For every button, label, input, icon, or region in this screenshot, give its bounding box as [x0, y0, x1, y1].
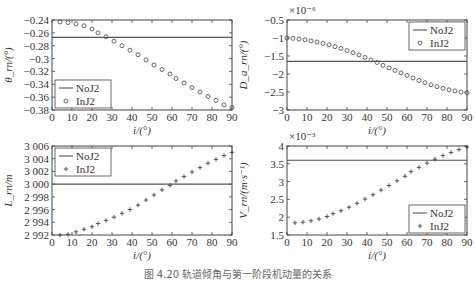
legend: NoJ2InJ2	[55, 148, 111, 176]
x-tick-label: 40	[362, 236, 374, 248]
x-axis-label: i/(°)	[133, 124, 151, 137]
x-tick-label: 90	[227, 111, 239, 123]
y-tick-label: 3 006	[24, 140, 49, 152]
legend-label: InJ2	[76, 95, 95, 107]
x-tick-label: 70	[422, 236, 434, 248]
x-tick-label: 20	[322, 236, 334, 248]
x-tick-label: 10	[67, 111, 79, 123]
y-axis-label: D_a_rn/(°)	[237, 40, 250, 90]
x-tick-label: 50	[382, 236, 394, 248]
y-tick-label: −0.5	[264, 14, 284, 26]
x-tick-label: 40	[362, 111, 374, 123]
legend-label: NoJ2	[430, 24, 453, 36]
x-tick-label: 60	[402, 236, 414, 248]
chart-panel-top-left: 0102030405060708090−0.24−0.26−0.28−0.3−0…	[2, 14, 238, 137]
y-tick-label: 2 998	[24, 191, 49, 203]
x-tick-label: 60	[167, 111, 179, 123]
x-tick-label: 30	[107, 111, 119, 123]
legend-label: NoJ2	[76, 150, 99, 162]
x-tick-label: 50	[382, 111, 394, 123]
x-tick-label: 30	[342, 111, 354, 123]
x-tick-label: 80	[207, 236, 219, 248]
legend-label: InJ2	[76, 163, 95, 175]
y-tick-label: −0.34	[24, 78, 50, 90]
x-tick-label: 10	[302, 236, 314, 248]
legend: NoJ2InJ2	[55, 80, 111, 108]
x-tick-label: 10	[302, 111, 314, 123]
y-tick-label: 4	[279, 140, 285, 152]
x-tick-label: 70	[187, 236, 199, 248]
axis-exponent-label: ×10⁻⁶	[289, 4, 316, 16]
y-tick-label: 2	[279, 211, 285, 223]
x-tick-label: 20	[87, 111, 99, 123]
x-tick-label: 30	[342, 236, 354, 248]
x-tick-label: 40	[127, 111, 139, 123]
y-tick-label: −0.28	[24, 40, 50, 52]
y-tick-label: 2.5	[270, 193, 284, 205]
y-tick-label: −1	[272, 32, 284, 44]
y-tick-label: −0.3	[29, 53, 49, 65]
x-tick-label: 90	[462, 111, 474, 123]
y-axis-label: L_rn/m	[2, 174, 14, 207]
x-tick-label: 70	[187, 111, 199, 123]
x-tick-label: 90	[227, 236, 239, 248]
x-tick-label: 60	[167, 236, 179, 248]
legend-label: NoJ2	[430, 207, 453, 219]
legend: NoJ2InJ2	[409, 22, 465, 50]
y-tick-label: −0.32	[24, 65, 49, 77]
y-tick-label: 2 996	[24, 204, 49, 216]
axis-exponent-label: ×10⁻³	[289, 130, 316, 142]
y-tick-label: 3	[279, 176, 285, 188]
y-axis-label: V_rn/(m·s⁻¹)	[237, 162, 250, 219]
x-tick-label: 20	[87, 236, 99, 248]
figure-caption: 图 4.20 轨道倾角与第一阶段机动量的关系	[0, 266, 476, 281]
y-tick-label: −1.5	[264, 50, 284, 62]
chart-panel-bottom-right: 010203040506070809043.532.521.5×10⁻³i/(°…	[237, 130, 473, 262]
y-tick-label: −2	[272, 68, 284, 80]
y-tick-label: −3	[272, 104, 284, 116]
chart-panel-bottom-left: 01020304050607080903 0063 0043 0023 0002…	[2, 140, 238, 262]
x-tick-label: 0	[49, 111, 55, 123]
y-tick-label: −0.26	[24, 27, 50, 39]
x-tick-label: 50	[147, 236, 159, 248]
y-tick-label: 3 000	[24, 178, 49, 190]
y-tick-label: −0.24	[24, 14, 50, 26]
x-axis-label: i/(°)	[368, 124, 386, 137]
y-tick-label: 1.5	[270, 229, 284, 241]
legend-label: InJ2	[430, 220, 449, 232]
y-tick-label: −0.38	[24, 104, 50, 116]
x-axis-label: i/(°)	[133, 249, 151, 262]
legend: NoJ2InJ2	[409, 205, 465, 233]
chart-panel-top-right: 0102030405060708090−0.5−1−1.5−2−2.5−3×10…	[237, 4, 473, 137]
y-tick-label: −2.5	[264, 86, 284, 98]
legend-label: NoJ2	[76, 82, 99, 94]
y-tick-label: 2 992	[24, 229, 49, 241]
x-tick-label: 0	[284, 236, 290, 248]
x-tick-label: 80	[442, 236, 454, 248]
y-tick-label: 3 002	[24, 165, 49, 177]
y-tick-label: 3.5	[270, 158, 284, 170]
x-tick-label: 60	[402, 111, 414, 123]
x-tick-label: 90	[462, 236, 474, 248]
x-tick-label: 50	[147, 111, 159, 123]
y-axis-label: θ_rn/(°)	[2, 47, 15, 83]
x-tick-label: 70	[422, 111, 434, 123]
x-tick-label: 80	[207, 111, 219, 123]
x-axis-label: i/(°)	[368, 249, 386, 262]
x-tick-label: 40	[127, 236, 139, 248]
x-tick-label: 0	[284, 111, 290, 123]
y-tick-label: −0.36	[24, 91, 50, 103]
x-tick-label: 20	[322, 111, 334, 123]
legend-label: InJ2	[430, 37, 449, 49]
x-tick-label: 80	[442, 111, 454, 123]
x-tick-label: 10	[67, 236, 79, 248]
x-tick-label: 0	[49, 236, 55, 248]
y-tick-label: 3 004	[24, 153, 49, 165]
y-tick-label: 2 994	[24, 216, 49, 228]
x-tick-label: 30	[107, 236, 119, 248]
